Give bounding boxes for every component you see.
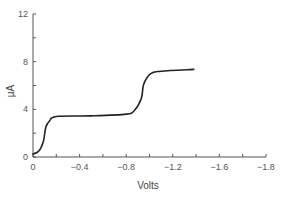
polarogram-chart: 04812 0−0.4−0.8−1.2−1.6−1.8 Volts µA [0,0,283,202]
x-tick-label: −1.2 [164,162,182,172]
current-voltage-curve [33,69,194,154]
y-tick-label: 12 [18,9,28,19]
y-tick-label: 4 [23,104,28,114]
x-tick-label: 0 [30,162,35,172]
x-tick-label: −0.4 [71,162,89,172]
axes: 04812 0−0.4−0.8−1.2−1.6−1.8 [18,9,275,172]
y-tick-label: 8 [23,57,28,67]
y-tick-label: 0 [23,152,28,162]
x-tick-label: −1.6 [211,162,229,172]
y-axis-title: µA [5,84,16,97]
x-tick-label: −1.8 [257,162,275,172]
x-tick-label: −0.8 [117,162,135,172]
x-axis-title: Volts [137,180,159,191]
